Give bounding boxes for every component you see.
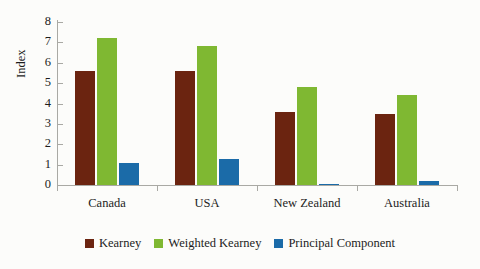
legend-item[interactable]: Weighted Kearney [154,236,261,251]
chart-legend: KearneyWeighted KearneyPrincipal Compone… [0,236,480,251]
legend-label: Weighted Kearney [168,236,261,251]
x-tick-mark [357,186,358,191]
bar [75,71,95,185]
bar [119,163,139,185]
x-tick-mark [157,186,158,191]
bar [319,184,339,185]
bar [297,87,317,185]
category-label: New Zealand [257,196,357,211]
bar [175,71,195,185]
bar [97,38,117,185]
bar [419,181,439,185]
y-tick-mark [58,185,63,186]
bar-group [157,18,257,185]
legend-item[interactable]: Principal Component [274,236,395,251]
legend-label: Kearney [99,236,141,251]
y-tick-label: 6 [29,56,51,69]
y-tick-label: 4 [29,97,51,110]
y-axis-label: Index [14,50,29,78]
plot-area [57,18,457,185]
y-tick-label: 7 [29,35,51,48]
bar-group [57,18,157,185]
bar [397,95,417,185]
category-label: Canada [57,196,157,211]
legend-swatch-icon [274,239,283,248]
bar-group [257,18,357,185]
y-tick-label: 3 [29,117,51,130]
category-label: USA [157,196,257,211]
bar [197,46,217,185]
legend-label: Principal Component [288,236,395,251]
y-tick-label: 0 [29,178,51,191]
x-tick-mark [57,186,58,191]
category-label: Australia [357,196,457,211]
bar [219,159,239,185]
x-tick-mark [457,186,458,191]
bar-chart-figure: Index 012345678 CanadaUSANew ZealandAust… [0,0,480,269]
legend-swatch-icon [154,239,163,248]
bar-group [357,18,457,185]
legend-swatch-icon [85,239,94,248]
legend-item[interactable]: Kearney [85,236,141,251]
y-tick-label: 1 [29,158,51,171]
y-tick-label: 5 [29,76,51,89]
x-tick-mark [257,186,258,191]
bar [275,112,295,185]
bar [375,114,395,185]
y-tick-label: 2 [29,137,51,150]
y-tick-label: 8 [29,15,51,28]
